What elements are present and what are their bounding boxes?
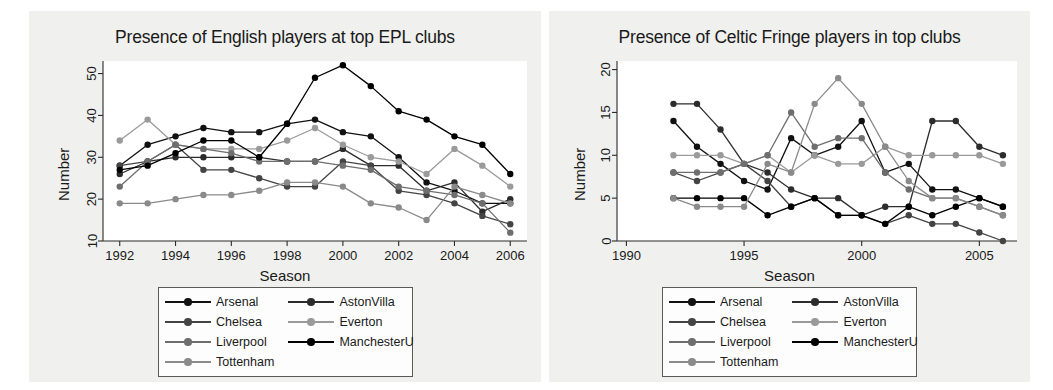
y-tick-label: 50 xyxy=(85,66,100,80)
series-marker-liverpool xyxy=(788,109,794,115)
series-marker-everton xyxy=(859,161,865,167)
series-marker-liverpool xyxy=(312,158,318,164)
series-marker-manchesteru xyxy=(788,204,794,210)
series-marker-everton xyxy=(340,142,346,148)
series-marker-arsenal xyxy=(256,129,262,135)
series-marker-liverpool xyxy=(423,188,429,194)
series-marker-everton xyxy=(117,137,123,143)
series-marker-tottenham xyxy=(788,169,794,175)
legend-label: Everton xyxy=(843,315,886,329)
legend-label: AstonVilla xyxy=(339,295,394,309)
series-marker-manchesteru xyxy=(882,221,888,227)
series-marker-manchesteru xyxy=(694,195,700,201)
series-marker-liverpool xyxy=(859,135,865,141)
series-marker-manchesteru xyxy=(256,154,262,160)
legend-item-astonvilla[interactable]: AstonVilla xyxy=(288,293,413,311)
series-marker-manchesteru xyxy=(953,204,959,210)
series-marker-everton xyxy=(284,137,290,143)
series-marker-manchesteru xyxy=(906,204,912,210)
series-marker-liverpool xyxy=(479,200,485,206)
legend-item-manchesteru[interactable]: ManchesterU xyxy=(792,333,917,351)
series-marker-chelsea xyxy=(256,175,262,181)
series-marker-astonvilla xyxy=(976,144,982,150)
series-marker-chelsea xyxy=(929,221,935,227)
legend-item-everton[interactable]: Everton xyxy=(792,313,917,331)
series-marker-tottenham xyxy=(976,204,982,210)
series-marker-tottenham xyxy=(284,179,290,185)
legend-item-tottenham[interactable]: Tottenham xyxy=(165,353,274,371)
y-tick-label: 15 xyxy=(599,105,614,119)
series-marker-liverpool xyxy=(228,150,234,156)
series-marker-liverpool xyxy=(200,146,206,152)
series-marker-tottenham xyxy=(811,101,817,107)
series-marker-everton xyxy=(906,152,912,158)
series-marker-arsenal xyxy=(764,186,770,192)
legend-item-arsenal[interactable]: Arsenal xyxy=(165,293,274,311)
series-marker-everton xyxy=(423,171,429,177)
legend-item-tottenham[interactable]: Tottenham xyxy=(669,353,778,371)
legend-english: ArsenalAstonVillaChelseaEvertonLiverpool… xyxy=(158,287,413,377)
series-marker-chelsea xyxy=(451,200,457,206)
y-tick-label: 10 xyxy=(599,148,614,162)
x-tick-label: 1995 xyxy=(730,248,759,261)
series-marker-everton xyxy=(312,125,318,131)
series-marker-chelsea xyxy=(507,221,513,227)
series-marker-arsenal xyxy=(717,161,723,167)
series-marker-manchesteru xyxy=(228,137,234,143)
legend-item-liverpool[interactable]: Liverpool xyxy=(165,333,274,351)
series-marker-everton xyxy=(479,162,485,168)
legend-item-everton[interactable]: Everton xyxy=(288,313,413,331)
legend-item-astonvilla[interactable]: AstonVilla xyxy=(792,293,917,311)
legend-label: Liverpool xyxy=(720,335,771,349)
series-marker-tottenham xyxy=(395,204,401,210)
legend-swatch-icon xyxy=(288,336,334,348)
series-marker-chelsea xyxy=(764,178,770,184)
series-marker-manchesteru xyxy=(312,75,318,81)
x-axis-title-english: Season xyxy=(29,267,541,284)
series-marker-manchesteru xyxy=(741,195,747,201)
plot-area-celtic: 051015201990199520002005 xyxy=(549,11,1030,261)
y-tick-label: 0 xyxy=(599,237,614,244)
series-marker-astonvilla xyxy=(670,101,676,107)
series-marker-liverpool xyxy=(764,152,770,158)
legend-label: Everton xyxy=(339,315,382,329)
series-marker-chelsea xyxy=(228,167,234,173)
legend-swatch-icon xyxy=(669,296,715,308)
series-marker-tottenham xyxy=(144,200,150,206)
legend-item-liverpool[interactable]: Liverpool xyxy=(669,333,778,351)
x-tick-label: 1996 xyxy=(217,248,246,261)
legend-item-arsenal[interactable]: Arsenal xyxy=(669,293,778,311)
legend-item-chelsea[interactable]: Chelsea xyxy=(165,313,274,331)
series-marker-arsenal xyxy=(172,133,178,139)
legend-swatch-icon xyxy=(165,356,211,368)
series-marker-manchesteru xyxy=(811,195,817,201)
series-marker-tottenham xyxy=(764,161,770,167)
legend-label: Chelsea xyxy=(216,315,262,329)
series-marker-chelsea xyxy=(694,178,700,184)
series-marker-manchesteru xyxy=(976,195,982,201)
x-tick-label: 1994 xyxy=(161,248,190,261)
series-marker-liverpool xyxy=(451,192,457,198)
series-marker-chelsea xyxy=(1000,238,1006,244)
series-marker-astonvilla xyxy=(882,204,888,210)
series-marker-tottenham xyxy=(312,179,318,185)
figure-root: Presence of English players at top EPL c… xyxy=(0,0,1053,390)
series-marker-tottenham xyxy=(228,192,234,198)
series-marker-everton xyxy=(976,152,982,158)
series-marker-manchesteru xyxy=(451,133,457,139)
series-marker-everton xyxy=(256,146,262,152)
x-tick-label: 2006 xyxy=(496,248,525,261)
series-marker-everton xyxy=(694,152,700,158)
series-marker-arsenal xyxy=(741,178,747,184)
series-marker-manchesteru xyxy=(717,195,723,201)
series-marker-everton xyxy=(1000,161,1006,167)
x-tick-label: 2000 xyxy=(847,248,876,261)
series-marker-arsenal xyxy=(906,161,912,167)
series-marker-liverpool xyxy=(172,142,178,148)
legend-swatch-icon xyxy=(669,336,715,348)
legend-item-chelsea[interactable]: Chelsea xyxy=(669,313,778,331)
legend-item-manchesteru[interactable]: ManchesterU xyxy=(288,333,413,351)
series-marker-tottenham xyxy=(929,195,935,201)
legend-label: AstonVilla xyxy=(843,295,898,309)
x-tick-label: 2002 xyxy=(384,248,413,261)
